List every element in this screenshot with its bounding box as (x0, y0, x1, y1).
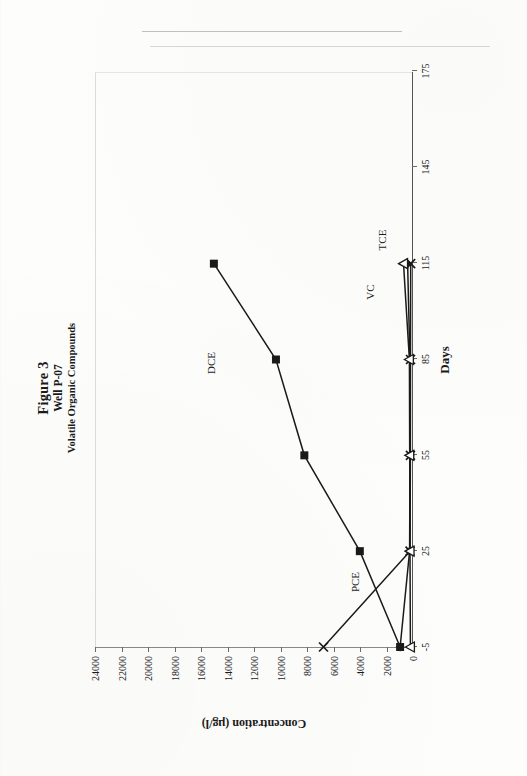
rotated-figure-wrapper: Figure 3 Well P-07 Volatile Organic Comp… (29, 32, 499, 744)
figure-volatile-organic-compounds: Figure 3 Well P-07 Volatile Organic Comp… (29, 32, 499, 744)
y-axis-tick-label: 4000 (354, 656, 365, 676)
y-axis-tick (95, 647, 96, 652)
x-axis-tick-label: -5 (420, 643, 431, 651)
y-axis-title-text: Concentration (µg/l) (201, 716, 306, 731)
y-axis-tick-label: 0 (407, 656, 418, 661)
y-axis-tick-label: 8000 (301, 656, 312, 676)
y-axis-tick (280, 647, 281, 652)
y-axis-tick-label: 20000 (142, 656, 153, 681)
figure-subtitle: Well P-07 (52, 32, 66, 744)
plot-area: 0200040006000800010000120001400016000180… (95, 72, 413, 648)
figure-subtitle2: Volatile Organic Compounds (65, 32, 77, 744)
x-axis-tick-label: 145 (420, 160, 431, 175)
data-point-vc (404, 450, 413, 460)
series-label-vc: VC (364, 284, 376, 299)
y-axis-tick-label: 18000 (169, 656, 180, 681)
series-label-pce: PCE (349, 572, 361, 592)
data-point-vc (404, 355, 413, 365)
y-axis-tick (227, 647, 228, 652)
y-axis-tick-label: 10000 (275, 656, 286, 681)
data-point-dce (271, 356, 279, 364)
y-axis-tick (201, 647, 202, 652)
y-axis-tick (174, 647, 175, 652)
y-axis-tick-label: 22000 (116, 656, 127, 681)
y-axis-tick (386, 647, 387, 652)
y-axis-title: Concentration (µg/l) (95, 712, 413, 734)
x-axis-tick-label: 85 (420, 354, 431, 364)
data-point-dce (300, 451, 308, 459)
x-axis-title: Days (437, 72, 453, 648)
series-label-tce: TCE (376, 230, 388, 251)
y-axis-tick (360, 647, 361, 652)
x-axis-tick-label: 115 (420, 256, 431, 271)
series-label-dce: DCE (205, 352, 217, 374)
x-axis-tick-label: 175 (420, 64, 431, 79)
y-axis-tick (307, 647, 308, 652)
x-axis-tick-label: 55 (420, 450, 431, 460)
x-axis-tick (412, 166, 417, 167)
y-axis-tick-label: 24000 (89, 656, 100, 681)
data-point-vc (405, 642, 414, 652)
data-point-pce (319, 643, 328, 652)
figure-title-block: Figure 3 Well P-07 Volatile Organic Comp… (35, 32, 78, 744)
y-axis-tick-label: 2000 (381, 656, 392, 676)
y-axis-tick-label: 16000 (195, 656, 206, 681)
figure-title: Figure 3 (35, 32, 52, 744)
series-plot (95, 72, 412, 647)
y-axis-tick (148, 647, 149, 652)
x-axis-tick (412, 70, 417, 71)
y-axis-tick-label: 6000 (328, 656, 339, 676)
x-axis-tick-label: 25 (420, 546, 431, 556)
scanned-page: Figure 3 Well P-07 Volatile Organic Comp… (0, 0, 527, 776)
data-point-dce (355, 547, 363, 555)
y-axis-tick-label: 12000 (248, 656, 259, 681)
y-axis-tick (333, 647, 334, 652)
data-point-vc (398, 259, 407, 269)
series-pce (319, 259, 415, 651)
data-point-dce (209, 260, 217, 268)
y-axis-tick (121, 647, 122, 652)
series-dce (209, 260, 403, 651)
y-axis-tick-label: 14000 (222, 656, 233, 681)
y-axis-tick (254, 647, 255, 652)
